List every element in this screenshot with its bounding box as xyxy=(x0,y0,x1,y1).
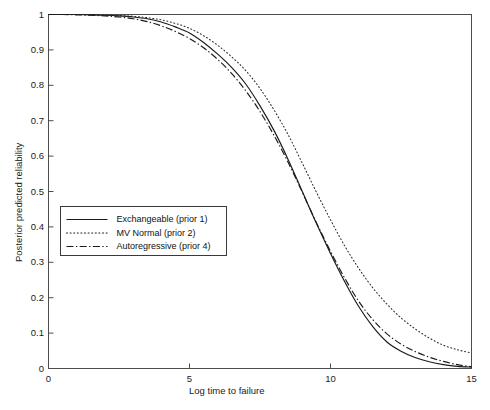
x-tick-label: 0 xyxy=(40,374,58,384)
x-axis-title: Log time to failure xyxy=(189,386,265,396)
x-tick-label: 5 xyxy=(181,374,199,384)
x-tick-label: 10 xyxy=(322,374,340,384)
series-line-3 xyxy=(49,14,472,366)
chart-plot xyxy=(0,0,490,410)
x-tick-label: 15 xyxy=(463,374,481,384)
legend-item-label: Autoregressive (prior 4) xyxy=(117,242,211,251)
y-tick-label: 0.9 xyxy=(14,45,44,55)
axes-frame xyxy=(49,15,472,369)
legend-item-label: Exchangeable (prior 1) xyxy=(117,215,208,224)
series-line-2 xyxy=(49,14,472,352)
y-tick-label: 0.8 xyxy=(14,80,44,90)
y-tick-label: 1 xyxy=(14,10,44,20)
y-tick-label: 0.7 xyxy=(14,116,44,126)
y-axis-title: Posterior predicted reliability xyxy=(14,143,24,262)
series-line-1 xyxy=(49,14,472,367)
figure-canvas: 00.10.20.30.40.50.60.70.80.91051015 Log … xyxy=(0,0,490,410)
legend-item-label: MV Normal (prior 2) xyxy=(117,229,196,238)
y-tick-label: 0.2 xyxy=(14,293,44,303)
y-tick-label: 0.1 xyxy=(14,328,44,338)
y-tick-label: 0 xyxy=(14,364,44,374)
